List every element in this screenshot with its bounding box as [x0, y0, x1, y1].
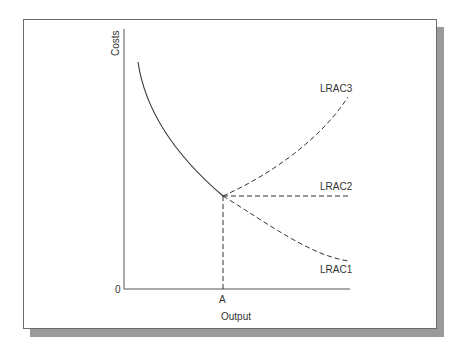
lrac1-curve	[223, 196, 348, 261]
lrac3-label: LRAC3	[320, 83, 353, 94]
y-axis-label: Costs	[110, 30, 121, 56]
x-axis-label: Output	[221, 311, 251, 322]
origin-label: 0	[115, 284, 121, 295]
x-tick-a: A	[219, 294, 226, 305]
lrac2-label: LRAC2	[320, 181, 353, 192]
lrac-solid-curve	[138, 62, 223, 196]
cost-curve-diagram: Costs 0 A Output LRAC3 LRAC2 LRAC1	[0, 0, 462, 349]
lrac1-label: LRAC1	[320, 264, 353, 275]
